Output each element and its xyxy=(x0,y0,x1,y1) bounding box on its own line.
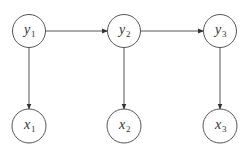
node-subscript: 1 xyxy=(31,124,36,134)
node-subscript: 3 xyxy=(222,29,227,39)
node-subscript: 2 xyxy=(126,124,131,134)
node-x3: x3 xyxy=(203,109,237,143)
node-subscript: 2 xyxy=(126,29,131,39)
node-y2: y2 xyxy=(108,15,141,48)
node-label: x xyxy=(23,117,31,132)
hmm-diagram: y1y2y3x1x2x3 xyxy=(0,0,249,150)
node-label: x xyxy=(118,117,126,132)
node-label: y xyxy=(22,22,31,37)
node-x1: x1 xyxy=(12,109,46,143)
node-label: x xyxy=(214,117,222,132)
node-y1: y1 xyxy=(13,15,46,48)
node-y3: y3 xyxy=(204,15,237,48)
node-subscript: 1 xyxy=(31,29,36,39)
node-label: y xyxy=(213,22,222,37)
node-x2: x2 xyxy=(107,109,141,143)
node-label: y xyxy=(117,22,126,37)
node-subscript: 3 xyxy=(222,124,227,134)
